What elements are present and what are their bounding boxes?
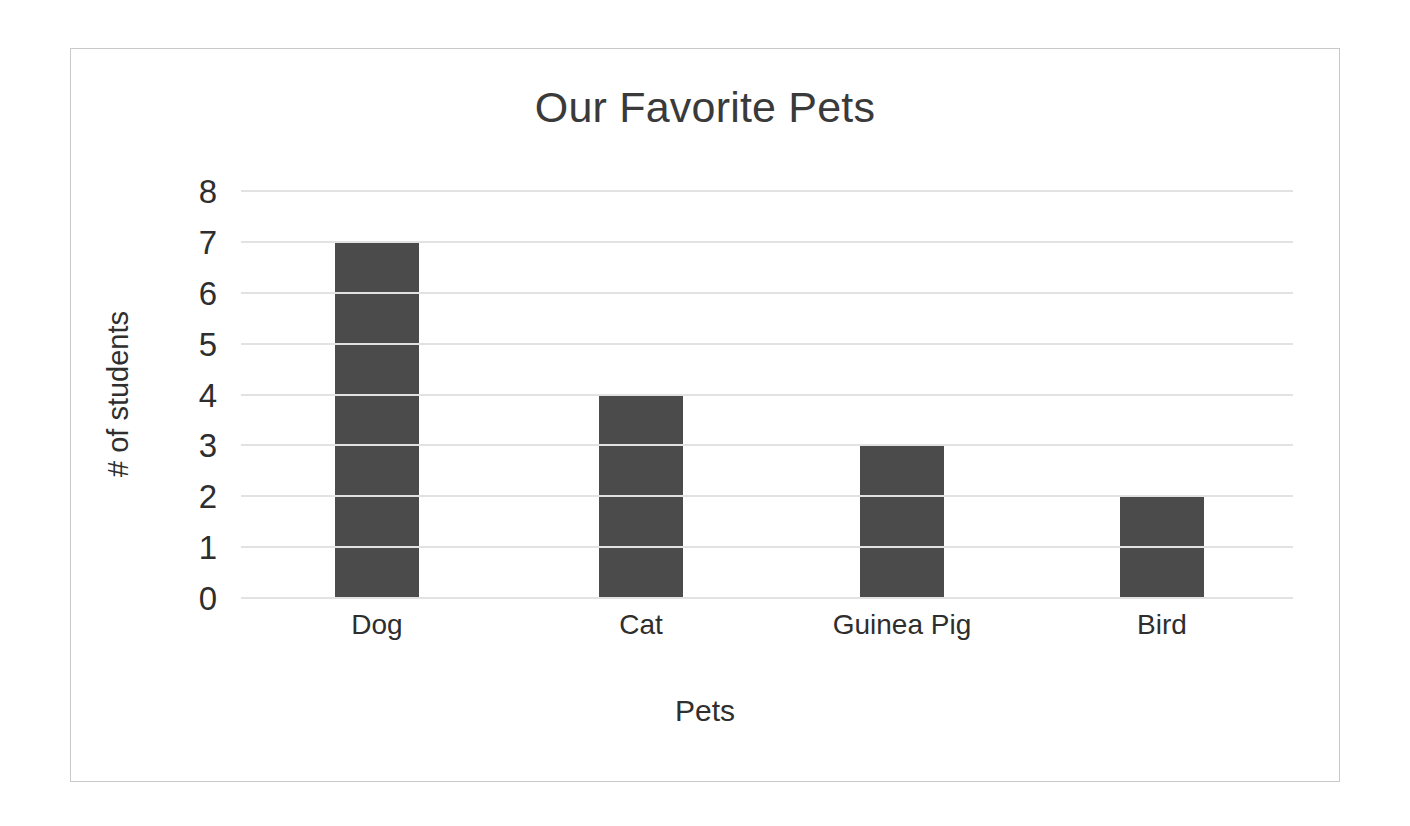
chart-title: Our Favorite Pets — [71, 85, 1339, 130]
y-axis-tick-label: 6 — [171, 276, 217, 309]
bar[interactable] — [860, 445, 944, 598]
bar[interactable] — [599, 395, 683, 599]
bar[interactable] — [1120, 496, 1204, 598]
y-axis-tick-labels: 876543210 — [171, 191, 217, 598]
x-axis-tick-labels: DogCatGuinea PigBird — [241, 611, 1293, 657]
x-axis-tick-label: Dog — [351, 611, 402, 639]
bar[interactable] — [335, 242, 419, 598]
y-axis-tick-label: 4 — [171, 378, 217, 411]
bars-layer — [241, 191, 1293, 598]
x-axis-tick-label: Bird — [1137, 611, 1187, 639]
x-axis-title: Pets — [71, 694, 1339, 728]
y-axis-tick-label: 5 — [171, 327, 217, 360]
y-axis-tick-label: 3 — [171, 429, 217, 462]
plot-area — [241, 191, 1293, 598]
y-axis-tick-label: 2 — [171, 480, 217, 513]
chart-frame: Our Favorite Pets # of students 87654321… — [70, 48, 1340, 782]
y-axis-tick-label: 1 — [171, 531, 217, 564]
y-axis-tick-label: 8 — [171, 175, 217, 208]
x-axis-tick-label: Guinea Pig — [833, 611, 972, 639]
y-axis-title: # of students — [102, 311, 135, 477]
x-axis-tick-label: Cat — [619, 611, 663, 639]
y-axis-tick-label: 7 — [171, 225, 217, 258]
y-axis-tick-label: 0 — [171, 582, 217, 615]
